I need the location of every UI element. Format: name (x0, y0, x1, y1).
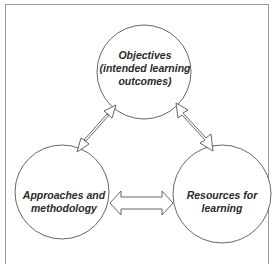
double-arrow-approaches-resources (110, 191, 173, 215)
label-line: Approaches and (23, 189, 105, 202)
label-line: (intended learning (99, 62, 190, 75)
node-resources-label: Resources for learning (187, 189, 258, 215)
node-objectives-label: Objectives (intended learning outcomes) (99, 49, 190, 88)
node-approaches-label: Approaches and methodology (23, 189, 105, 215)
double-arrow-objectives-approaches (77, 105, 116, 152)
label-line: Objectives (99, 49, 190, 62)
label-line: Resources for (187, 189, 258, 202)
label-line: outcomes) (99, 75, 190, 88)
label-line: methodology (23, 202, 105, 215)
double-arrow-objectives-resources (176, 103, 213, 151)
label-line: learning (187, 202, 258, 215)
